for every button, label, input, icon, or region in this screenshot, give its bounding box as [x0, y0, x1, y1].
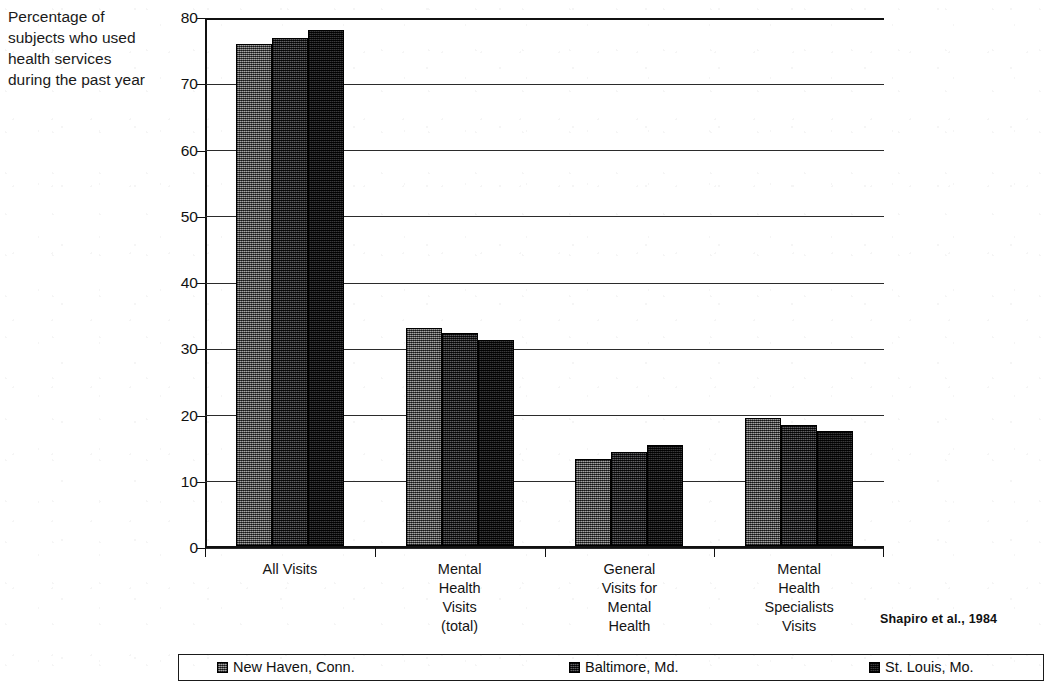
bar-group — [575, 18, 683, 546]
bar — [272, 38, 308, 546]
x-tick-mark — [883, 548, 884, 557]
y-tick-label-40: 40 — [156, 275, 198, 291]
x-category-label: Mental Health Specialists Visits — [714, 560, 884, 636]
x-category-label: All Visits — [205, 560, 375, 579]
bar — [406, 328, 442, 546]
x-category-label: Mental Health Visits (total) — [375, 560, 545, 636]
y-tick-label-70: 70 — [156, 76, 198, 92]
legend-swatch-icon — [217, 662, 228, 673]
legend-swatch-icon — [869, 662, 880, 673]
bar — [817, 431, 853, 546]
y-tick-label-0: 0 — [156, 540, 198, 556]
bar — [647, 445, 683, 546]
x-tick-mark — [205, 548, 206, 557]
bar-group — [406, 18, 514, 546]
y-tick-label-30: 30 — [156, 341, 198, 357]
bar-group — [745, 18, 853, 546]
legend-label: St. Louis, Mo. — [885, 659, 974, 676]
y-tick-label-10: 10 — [156, 474, 198, 490]
x-tick-mark — [545, 548, 546, 557]
legend-label: New Haven, Conn. — [233, 659, 355, 676]
y-tick-label-80: 80 — [156, 10, 198, 26]
chart-legend: New Haven, Conn.Baltimore, Md.St. Louis,… — [178, 654, 1044, 681]
x-axis-tick-marks — [205, 548, 884, 558]
x-tick-mark — [714, 548, 715, 557]
legend-swatch-icon — [569, 662, 580, 673]
source-citation: Shapiro et al., 1984 — [880, 612, 997, 626]
y-tick-label-20: 20 — [156, 408, 198, 424]
y-axis-tick-labels: 01020304050607080 — [150, 18, 198, 548]
bars-layer — [205, 18, 884, 546]
bar — [236, 44, 272, 546]
bar — [442, 333, 478, 546]
x-axis-category-labels: All VisitsMental Health Visits (total)Ge… — [205, 560, 884, 645]
x-category-label: General Visits for Mental Health — [545, 560, 715, 636]
bar — [611, 452, 647, 546]
bar — [781, 425, 817, 546]
legend-item[interactable]: Baltimore, Md. — [569, 659, 678, 676]
legend-label: Baltimore, Md. — [585, 659, 678, 676]
y-tick-label-50: 50 — [156, 209, 198, 225]
bar — [575, 459, 611, 546]
bar — [308, 30, 344, 546]
y-axis-title: Percentage of subjects who used health s… — [8, 6, 148, 90]
bar — [745, 418, 781, 546]
legend-item[interactable]: St. Louis, Mo. — [869, 659, 974, 676]
x-tick-mark — [375, 548, 376, 557]
plot-area — [205, 18, 884, 548]
bar-group — [236, 18, 344, 546]
bar — [478, 340, 514, 546]
y-tick-label-60: 60 — [156, 143, 198, 159]
legend-item[interactable]: New Haven, Conn. — [217, 659, 355, 676]
